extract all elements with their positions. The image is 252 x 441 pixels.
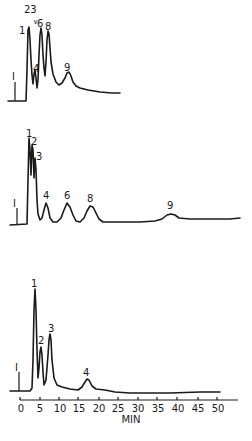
chromatogram-top: I 1 23 ∨ 4 6 8 9 (8, 4, 120, 101)
tick-label: 10 (54, 403, 67, 414)
peak-label: 3 (36, 151, 42, 162)
peak-label: 23 (24, 4, 37, 15)
chromatogram-figure: I 1 23 ∨ 4 6 8 9 I 1 2 3 4 6 8 9 I 1 2 3… (0, 0, 252, 441)
chromatogram-middle: I 1 2 3 4 6 8 9 (10, 128, 240, 225)
peak-label: 9 (64, 62, 70, 73)
trace-middle (10, 138, 240, 225)
peak-label: 6 (37, 18, 43, 29)
peak-label: 2 (31, 136, 37, 147)
tick-label: 0 (18, 403, 24, 414)
injection-label: I (12, 71, 15, 82)
peak-label: 1 (19, 25, 25, 36)
tick-label: 25 (112, 403, 125, 414)
tick-label: 30 (132, 403, 145, 414)
injection-label: I (13, 198, 16, 209)
x-axis-title: MIN (121, 414, 140, 425)
tick-label: 15 (73, 403, 86, 414)
tick-label: 45 (192, 403, 205, 414)
peak-label: 6 (64, 190, 70, 201)
peak-label: 8 (87, 193, 93, 204)
chromatogram-bottom: I 1 2 3 4 (10, 278, 220, 393)
injection-label: I (15, 362, 18, 373)
tick-label: 5 (37, 403, 43, 414)
peak-label: 8 (45, 21, 51, 32)
peak-label: 4 (33, 63, 39, 74)
peak-label: 3 (48, 323, 54, 334)
peak-label: 4 (83, 367, 89, 378)
tick-label: 20 (93, 403, 106, 414)
peak-label: 2 (38, 335, 44, 346)
peak-label: 4 (43, 190, 49, 201)
peak-label: 9 (167, 200, 173, 211)
tick-label: 35 (152, 403, 165, 414)
tick-label: 50 (212, 403, 225, 414)
peak-label: 1 (31, 278, 37, 289)
tick-label: 40 (172, 403, 185, 414)
x-axis: 0 5 10 15 20 25 30 35 40 45 50 MIN (18, 397, 238, 425)
